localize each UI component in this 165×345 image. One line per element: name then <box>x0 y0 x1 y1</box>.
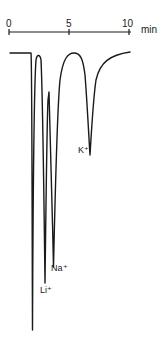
tick-label-5: 5 <box>66 18 72 29</box>
axis-unit-label: min <box>141 24 157 35</box>
time-axis: 0 5 10 min <box>6 18 157 35</box>
chromatogram-chart: 0 5 10 min <box>0 0 165 345</box>
peak-label-k: K⁺ <box>78 145 89 155</box>
peak-label-li: Li⁺ <box>40 285 52 295</box>
peak-label-na: Na⁺ <box>51 263 68 273</box>
tick-label-10: 10 <box>122 18 134 29</box>
tick-label-0: 0 <box>6 18 12 29</box>
chromatogram-trace <box>10 52 130 330</box>
